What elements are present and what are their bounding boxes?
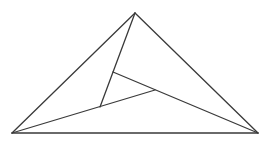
triangle-diagram: [0, 0, 268, 141]
segment-PC: [113, 72, 258, 133]
segment-AR: [100, 13, 135, 107]
segment-AC: [135, 13, 258, 133]
